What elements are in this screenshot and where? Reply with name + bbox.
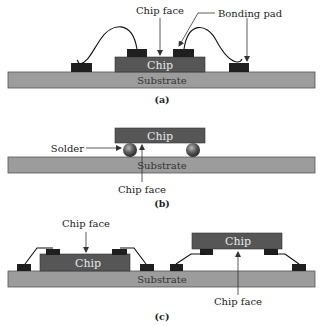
- tab-lead-c-3: [176, 254, 206, 264]
- substrate-pad-c-2: [140, 264, 154, 271]
- chip-face-label-b: Chip face: [118, 184, 166, 195]
- caption-b: (b): [154, 198, 170, 209]
- panel-c: Substrate Chip Chip face Chip Chip face …: [8, 218, 315, 322]
- chip-pad-c-left-1: [46, 249, 60, 255]
- substrate-pad-c-4: [292, 264, 306, 271]
- tab-lead-c-4: [271, 254, 299, 264]
- caption-a: (a): [154, 94, 169, 105]
- chip-b-label: Chip: [147, 130, 173, 143]
- solder-ball-left: [123, 143, 137, 157]
- substrate-a-label: Substrate: [137, 75, 187, 86]
- solder-label: Solder: [51, 143, 84, 154]
- solder-ball-right: [186, 143, 200, 157]
- packaging-diagram: Substrate Chip Chip face Bonding pad (a)…: [0, 0, 325, 326]
- panel-a: Substrate Chip Chip face Bonding pad (a): [8, 5, 315, 105]
- substrate-pad-left-a: [71, 63, 92, 72]
- chip-face-label-c-bottom: Chip face: [214, 296, 262, 307]
- chip-pad-c-left-2: [112, 249, 127, 255]
- chip-a-label: Chip: [147, 59, 173, 72]
- chip-face-label-a: Chip face: [136, 5, 184, 16]
- substrate-pad-c-1: [17, 264, 31, 271]
- caption-c: (c): [155, 311, 170, 322]
- substrate-c-label: Substrate: [137, 274, 187, 285]
- chip-pad-right-a: [173, 49, 194, 57]
- bonding-pad-label: Bonding pad: [218, 8, 283, 19]
- bonding-pad-arrow-1: [179, 13, 215, 46]
- chip-c-left-label: Chip: [75, 257, 101, 270]
- chip-c-right-label: Chip: [225, 235, 251, 248]
- substrate-b-label: Substrate: [137, 160, 187, 171]
- substrate-pad-right-a: [229, 63, 249, 72]
- chip-face-label-c-top: Chip face: [62, 218, 110, 229]
- panel-b: Substrate Chip Solder Chip face (b): [8, 128, 315, 209]
- substrate-pad-c-3: [170, 264, 183, 271]
- chip-pad-left-a: [127, 49, 147, 57]
